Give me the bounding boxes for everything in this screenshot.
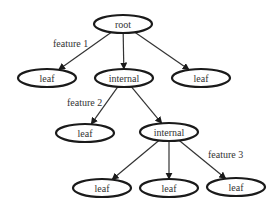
node-label: leaf: [95, 183, 111, 194]
node-label: leaf: [40, 73, 56, 84]
node-label: leaf: [229, 182, 245, 193]
node-internal1: internal: [95, 69, 153, 87]
node-label: leaf: [78, 128, 94, 139]
edge-internal2-leaf4: [112, 140, 159, 179]
node-label: internal: [154, 127, 185, 138]
decision-tree-diagram: rootleafinternalleafleafinternalleafleaf…: [0, 0, 279, 208]
edge-label: feature 1: [53, 38, 88, 49]
node-label: leaf: [162, 183, 178, 194]
node-label: root: [115, 19, 131, 30]
node-leaf1: leaf: [18, 69, 76, 87]
node-leaf2: leaf: [172, 69, 230, 87]
node-label: internal: [109, 73, 140, 84]
edge-label: feature 2: [67, 97, 102, 108]
node-leaf6: leaf: [207, 178, 265, 196]
node-leaf4: leaf: [73, 179, 131, 197]
edge-label: feature 3: [208, 149, 243, 160]
node-label: leaf: [194, 73, 210, 84]
node-leaf5: leaf: [140, 179, 198, 197]
edge-root-leaf2: [135, 32, 189, 70]
edge-internal1-internal2: [131, 87, 161, 124]
node-root: root: [94, 15, 152, 33]
node-leaf3: leaf: [56, 124, 114, 142]
edge-root-internal1: [123, 33, 124, 69]
node-internal2: internal: [140, 123, 198, 141]
